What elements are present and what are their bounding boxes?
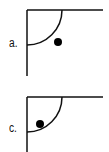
panel-a: [27, 10, 103, 76]
bowl-diagram: [0, 0, 109, 152]
panel-c-ball-icon: [36, 120, 44, 128]
panel-c-curved-track: [27, 97, 62, 132]
panel-c: [27, 97, 103, 152]
panel-a-ball-icon: [54, 38, 62, 46]
